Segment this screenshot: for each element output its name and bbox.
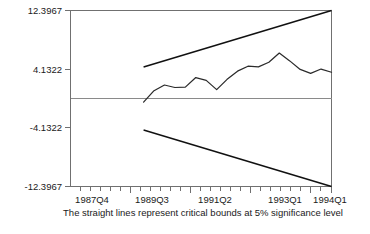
y-axis-ticks bbox=[65, 11, 71, 187]
x-axis-tick-label: 1991Q2 bbox=[198, 194, 232, 205]
upper-critical-bound-line bbox=[144, 11, 332, 67]
chart-caption: The straight lines represent critical bo… bbox=[63, 207, 343, 218]
x-axis-ticks bbox=[81, 187, 332, 193]
x-axis-labels: 1987Q4 1989Q3 1991Q2 1993Q1 1994Q1 bbox=[75, 194, 347, 205]
cusum-statistic-line bbox=[144, 53, 332, 102]
y-axis-labels: 12.3967 4.1322 -4.1322 -12.3967 bbox=[24, 5, 62, 192]
cusum-plot-svg: 12.3967 4.1322 -4.1322 -12.3967 bbox=[0, 0, 370, 234]
y-axis-tick-label: -12.3967 bbox=[24, 181, 62, 192]
x-axis-tick-label: 1989Q3 bbox=[135, 194, 169, 205]
x-axis-tick-label: 1987Q4 bbox=[75, 194, 109, 205]
x-axis-tick-label: 1994Q1 bbox=[313, 194, 347, 205]
x-axis-tick-label: 1993Q1 bbox=[268, 194, 302, 205]
lower-critical-bound-line bbox=[144, 130, 332, 186]
cusum-chart-figure: 12.3967 4.1322 -4.1322 -12.3967 bbox=[0, 0, 370, 234]
y-axis-tick-label: 12.3967 bbox=[28, 5, 62, 16]
y-axis-tick-label: 4.1322 bbox=[33, 64, 62, 75]
y-axis-tick-label: -4.1322 bbox=[30, 122, 62, 133]
